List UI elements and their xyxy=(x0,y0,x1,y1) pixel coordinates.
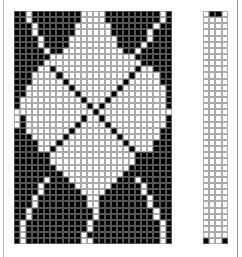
right-border xyxy=(237,0,238,257)
grid-cell[interactable] xyxy=(222,238,228,244)
grid-cell[interactable] xyxy=(166,238,172,244)
left-border xyxy=(3,0,4,257)
pattern-grid[interactable] xyxy=(14,11,172,244)
threading-strip[interactable] xyxy=(203,11,228,244)
